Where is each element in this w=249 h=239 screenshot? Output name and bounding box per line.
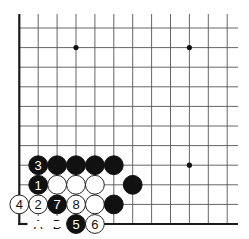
stone-circle [104, 195, 123, 214]
white-stone [86, 195, 105, 214]
move-number: 6 [91, 217, 98, 232]
stone-circle [67, 175, 86, 194]
white-stone-8: 8 [67, 195, 86, 214]
black-stone-3: 3 [29, 156, 48, 175]
move-number: 8 [72, 197, 79, 212]
stone-circle [86, 195, 105, 214]
black-stone-5: 5 [67, 215, 86, 234]
black-stone-1: 1 [29, 175, 48, 194]
move-number: 5 [72, 217, 79, 232]
move-number: 1 [35, 178, 42, 193]
black-stone [104, 156, 123, 175]
move-number: 2 [35, 197, 42, 212]
stone-circle [48, 156, 67, 175]
white-stone [48, 175, 67, 194]
go-board: AB 31427856 [0, 0, 249, 239]
stone-circle [123, 175, 142, 194]
white-stone-2: 2 [29, 195, 48, 214]
black-stone-7: 7 [48, 195, 67, 214]
stone-circle [86, 156, 105, 175]
black-stone [48, 156, 67, 175]
star-point [187, 163, 192, 168]
stone-circle [86, 175, 105, 194]
white-stone [86, 175, 105, 194]
star-point [73, 45, 78, 50]
move-number: 3 [35, 158, 42, 173]
black-stone [86, 156, 105, 175]
stone-circle [67, 156, 86, 175]
star-point [187, 45, 192, 50]
stone-circle [48, 175, 67, 194]
move-number: 7 [53, 197, 60, 212]
black-stone [67, 156, 86, 175]
white-stone-4: 4 [10, 195, 29, 214]
black-stone [123, 175, 142, 194]
stone-circle [104, 156, 123, 175]
white-stone-6: 6 [86, 215, 105, 234]
move-number: 4 [16, 197, 23, 212]
white-stone [67, 175, 86, 194]
black-stone [104, 195, 123, 214]
